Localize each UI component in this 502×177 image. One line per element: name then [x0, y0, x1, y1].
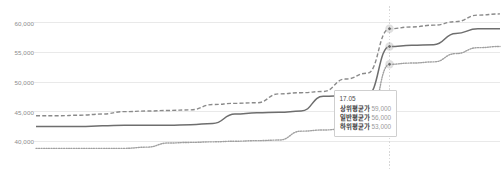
- tooltip-value-lower: 53,000: [372, 123, 392, 130]
- tooltip-row-upper: 상위평균가59,000: [340, 105, 392, 114]
- tooltip-label-upper: 상위평균가: [340, 105, 370, 112]
- tooltip-label-normal: 일반평균가: [340, 114, 370, 121]
- chart-plot-area: [0, 0, 502, 177]
- tooltip-label-lower: 하위평균가: [340, 123, 370, 130]
- price-trend-chart: 40,00045,00050,00055,00060,000 17.05 상위평…: [0, 0, 502, 177]
- tooltip-date: 17.05: [340, 95, 392, 104]
- tooltip-row-lower: 하위평균가53,000: [340, 123, 392, 132]
- tooltip-value-upper: 59,000: [372, 105, 392, 112]
- tooltip-value-normal: 56,000: [372, 114, 392, 121]
- chart-tooltip: 17.05 상위평균가59,000 일반평균가56,000 하위평균가53,00…: [334, 90, 398, 136]
- tooltip-row-normal: 일반평균가56,000: [340, 114, 392, 123]
